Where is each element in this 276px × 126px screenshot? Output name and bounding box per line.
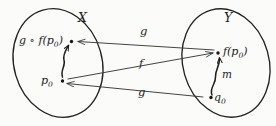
arrow-label-g-top: g <box>140 26 147 38</box>
curve-path-in-y <box>211 58 219 95</box>
set-outline-x <box>1 0 116 126</box>
point-label-gfp0: g ∘ f(p0) <box>19 35 63 49</box>
point-dot-fp0 <box>216 51 219 54</box>
point-dot-gfp0 <box>70 40 73 43</box>
point-label-q0-main: q <box>214 91 221 104</box>
point-label-fp0-tail: ) <box>243 45 247 58</box>
arrow-label-f-middle: f <box>139 58 143 70</box>
point-label-gfp0-tail: ) <box>59 34 63 47</box>
point-label-fp0-main: f(p <box>223 45 238 58</box>
arrow-g-bottom <box>67 84 203 98</box>
set-outline-y <box>170 0 276 126</box>
diagram-vector-layer <box>0 0 276 126</box>
point-label-q0-sub: 0 <box>221 97 226 106</box>
arrow-label-g-bottom: g <box>138 87 145 99</box>
point-label-p0-sub: 0 <box>48 80 53 89</box>
point-label-fp0: f(p0) <box>223 46 247 60</box>
curve-label-m: m <box>222 69 232 80</box>
set-label-y: Y <box>224 12 232 25</box>
point-label-p0: p0 <box>41 75 53 89</box>
set-label-x: X <box>78 12 87 25</box>
point-label-p0-main: p <box>41 74 48 87</box>
point-label-gfp0-main: g ∘ f(p <box>19 34 54 47</box>
point-dot-q0 <box>209 96 212 99</box>
math-diagram-canvas: X Y g ∘ f(p0) p0 f(p0) q0 g f g m <box>0 0 276 126</box>
point-label-q0: q0 <box>214 92 226 106</box>
point-dot-p0 <box>61 79 64 82</box>
curve-path-in-x <box>62 46 69 78</box>
